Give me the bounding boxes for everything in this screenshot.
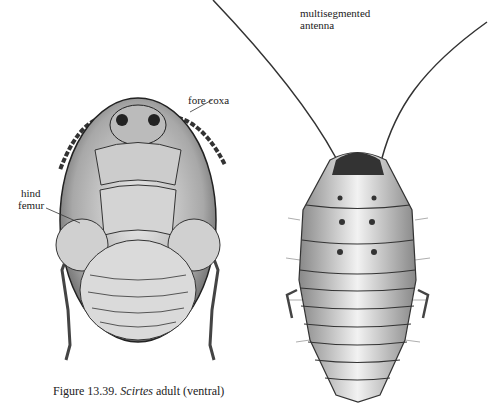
caption-genus: Scirtes [120, 384, 153, 398]
caption-prefix: Figure 13.39. [53, 384, 117, 398]
hind-femur-label-line2: femur [18, 199, 44, 211]
fore-coxa-label: fore coxa [188, 94, 229, 106]
larva-drawing [213, 0, 487, 402]
caption-rest: adult (ventral) [156, 384, 224, 398]
adult-beetle-drawing [56, 98, 225, 360]
antenna-label-line1: multisegmented [300, 7, 370, 19]
antenna-label: multisegmented antenna [300, 7, 370, 31]
figure-illustrations [0, 0, 498, 412]
hind-femur-label-line1: hind [18, 187, 44, 199]
antenna-label-line2: antenna [300, 19, 370, 31]
figure-caption: Figure 13.39. Scirtes adult (ventral) [53, 384, 224, 399]
hind-femur-label: hind femur [18, 187, 44, 211]
